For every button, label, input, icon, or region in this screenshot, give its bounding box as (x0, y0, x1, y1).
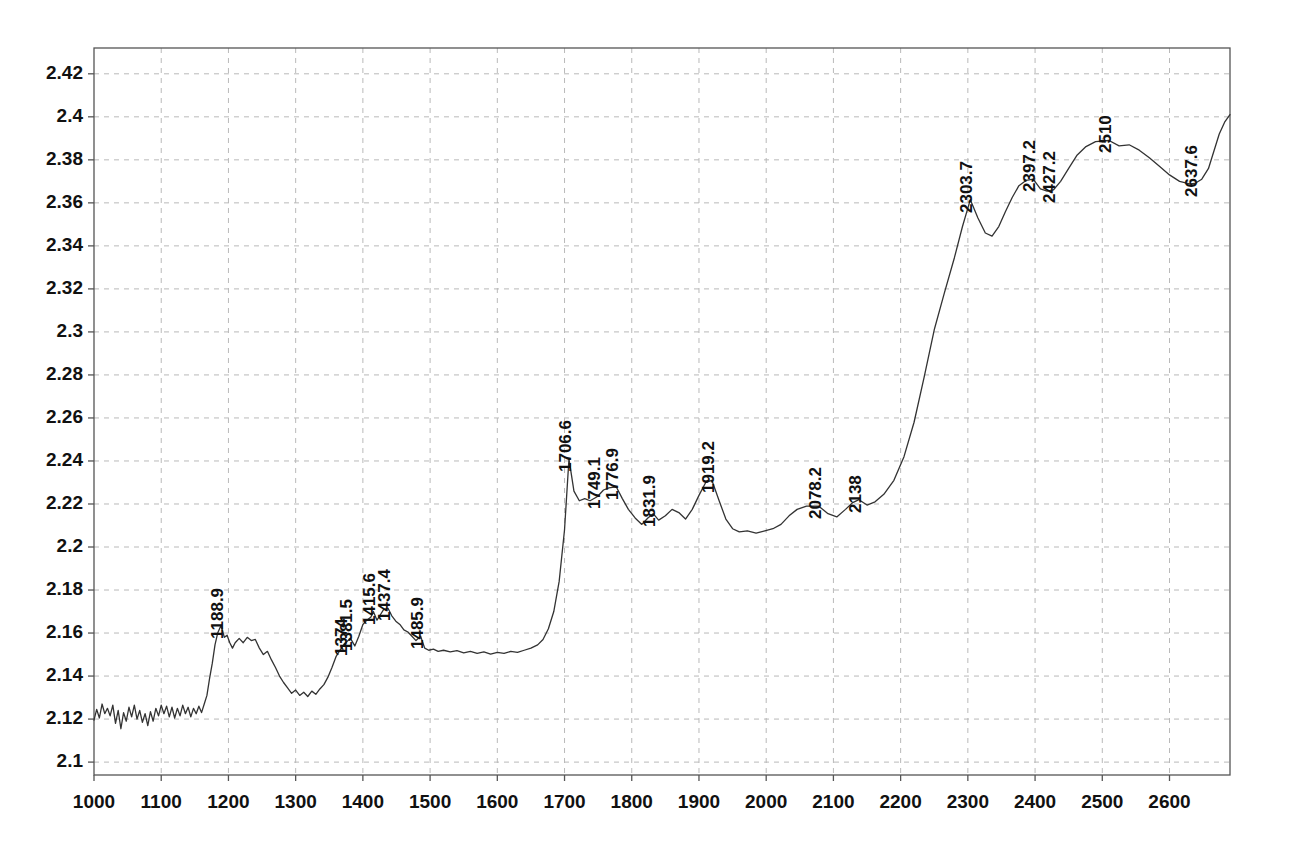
peak-label: 1776.9 (603, 448, 623, 500)
x-tick-label: 2600 (1138, 791, 1202, 813)
x-tick-label: 2100 (801, 791, 865, 813)
peak-label: 2510 (1096, 116, 1116, 154)
y-tick-label: 2.28 (46, 363, 83, 385)
x-tick-label: 1300 (264, 791, 328, 813)
spectrum-line (94, 115, 1230, 729)
y-tick-label: 2.1 (57, 750, 83, 772)
peak-label: 2427.2 (1040, 151, 1060, 203)
x-tick-label: 2300 (936, 791, 1000, 813)
y-tick-label: 2.3 (57, 320, 83, 342)
x-tick-label: 2500 (1070, 791, 1134, 813)
y-tick-label: 2.22 (46, 492, 83, 514)
peak-label: 1919.2 (699, 441, 719, 493)
y-tick-label: 2.34 (46, 234, 83, 256)
x-tick-label: 2200 (869, 791, 933, 813)
axis-ticks (88, 74, 1170, 781)
peak-label: 2078.2 (806, 467, 826, 519)
peak-label: 1749.1 (585, 457, 605, 509)
peak-label: 1381.5 (337, 599, 357, 651)
y-tick-label: 2.38 (46, 148, 83, 170)
x-tick-label: 2400 (1003, 791, 1067, 813)
x-tick-label: 2000 (734, 791, 798, 813)
y-tick-label: 2.36 (46, 191, 83, 213)
peak-label: 1188.9 (208, 587, 228, 638)
peak-label: 2303.7 (957, 161, 977, 213)
y-tick-label: 2.12 (46, 707, 83, 729)
peak-label: 2637.6 (1182, 145, 1202, 197)
y-tick-label: 2.32 (46, 277, 83, 299)
peak-label: 1831.9 (640, 475, 660, 527)
peak-label: 1485.9 (408, 597, 428, 649)
spectrum-chart: 2.12.122.142.162.182.22.222.242.262.282.… (0, 0, 1289, 843)
x-tick-label: 1400 (331, 791, 395, 813)
y-tick-label: 2.4 (57, 105, 83, 127)
x-tick-label: 1100 (129, 791, 193, 813)
y-tick-label: 2.16 (46, 621, 83, 643)
y-tick-label: 2.18 (46, 578, 83, 600)
peak-label: 1706.6 (556, 420, 576, 472)
peak-label: 2138 (846, 475, 866, 513)
peak-label: 2397.2 (1020, 140, 1040, 192)
x-tick-label: 1200 (196, 791, 260, 813)
x-tick-label: 1700 (533, 791, 597, 813)
x-tick-label: 1500 (398, 791, 462, 813)
y-tick-label: 2.14 (46, 664, 83, 686)
x-tick-label: 1600 (465, 791, 529, 813)
x-tick-label: 1800 (600, 791, 664, 813)
x-tick-label: 1000 (62, 791, 126, 813)
y-tick-label: 2.26 (46, 406, 83, 428)
y-tick-label: 2.24 (46, 449, 83, 471)
x-tick-label: 1900 (667, 791, 731, 813)
y-tick-label: 2.2 (57, 535, 83, 557)
peak-label: 1437.4 (375, 569, 395, 621)
y-tick-label: 2.42 (46, 62, 83, 84)
